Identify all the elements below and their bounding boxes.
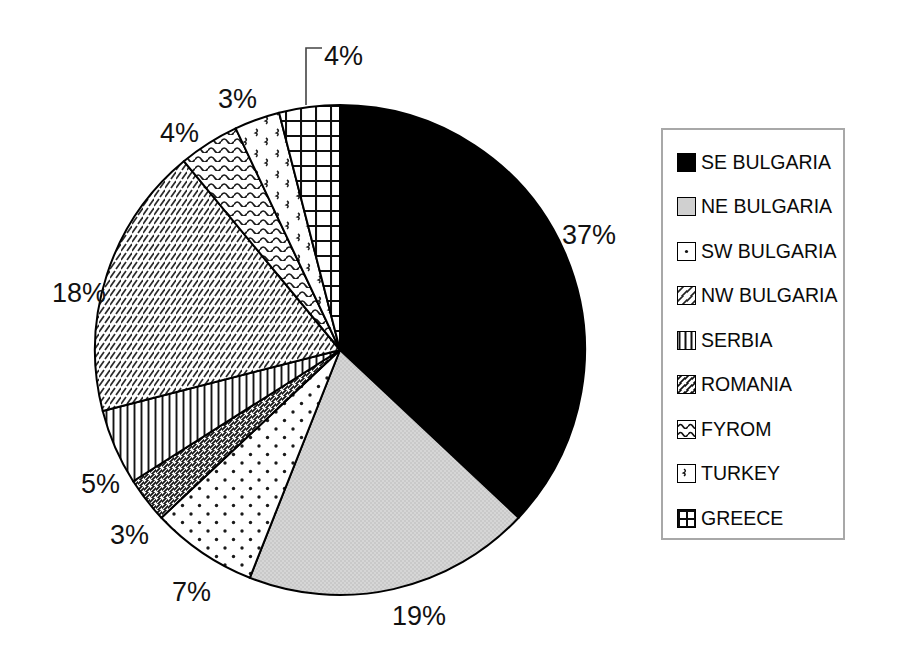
- legend-item-label: GREECE: [701, 509, 783, 529]
- pie-label-sw-bulgaria: 7%: [172, 577, 211, 608]
- legend-item-label: ROMANIA: [701, 375, 792, 395]
- legend-swatch-wavy-lines-icon: [677, 420, 696, 439]
- legend-item-label: SE BULGARIA: [701, 153, 831, 173]
- legend-swatch-dense-diagonal-hatch-icon: [677, 375, 696, 394]
- pie-label-serbia: 5%: [81, 469, 120, 500]
- legend-item-label: NE BULGARIA: [701, 197, 832, 217]
- legend-item-nw-bulgaria[interactable]: NW BULGARIA: [677, 274, 847, 319]
- legend-item-fyrom[interactable]: FYROM: [677, 407, 847, 452]
- legend-item-label: SERBIA: [701, 331, 773, 351]
- pie-slices: [95, 105, 585, 595]
- legend-swatch-sparse-dots-icon: [677, 242, 696, 261]
- legend-item-label: TURKEY: [701, 464, 780, 484]
- legend-item-greece[interactable]: GREECE: [677, 496, 847, 541]
- legend-item-ne-bulgaria[interactable]: NE BULGARIA: [677, 185, 847, 230]
- legend-item-romania[interactable]: ROMANIA: [677, 363, 847, 408]
- legend-item-label: FYROM: [701, 420, 771, 440]
- pie-label-se-bulgaria: 37%: [562, 220, 616, 251]
- pie-label-fyrom: 4%: [160, 118, 199, 149]
- legend-swatch-scattered-marks-icon: [677, 464, 696, 483]
- leader-line-path: [306, 48, 322, 105]
- legend-item-se-bulgaria[interactable]: SE BULGARIA: [677, 140, 847, 185]
- legend-swatch-grid-crosshatch-icon: [677, 509, 696, 528]
- pie-label-romania: 3%: [110, 520, 149, 551]
- chart-legend: SE BULGARIANE BULGARIASW BULGARIANW BULG…: [661, 128, 845, 540]
- pie-label-turkey: 3%: [218, 84, 257, 115]
- legend-swatch-fine-diagonal-hatch-icon: [677, 286, 696, 305]
- legend-item-serbia[interactable]: SERBIA: [677, 318, 847, 363]
- legend-item-list: SE BULGARIANE BULGARIASW BULGARIANW BULG…: [677, 140, 847, 541]
- legend-item-label: SW BULGARIA: [701, 242, 836, 262]
- pie-label-ne-bulgaria: 19%: [392, 601, 446, 632]
- legend-swatch-vertical-lines-icon: [677, 331, 696, 350]
- pie-label-nw-bulgaria: 18%: [52, 278, 106, 309]
- pie-label-greece: 4%: [324, 41, 363, 72]
- legend-item-turkey[interactable]: TURKEY: [677, 452, 847, 497]
- chart-canvas: 37%19%7%3%5%18%4%3%4% SE BULGARIANE BULG…: [0, 0, 898, 662]
- legend-swatch-light-gray-icon: [677, 197, 696, 216]
- legend-item-label: NW BULGARIA: [701, 286, 838, 306]
- greece-leader-line: [306, 48, 322, 105]
- legend-item-sw-bulgaria[interactable]: SW BULGARIA: [677, 229, 847, 274]
- legend-swatch-solid-black-icon: [677, 153, 696, 172]
